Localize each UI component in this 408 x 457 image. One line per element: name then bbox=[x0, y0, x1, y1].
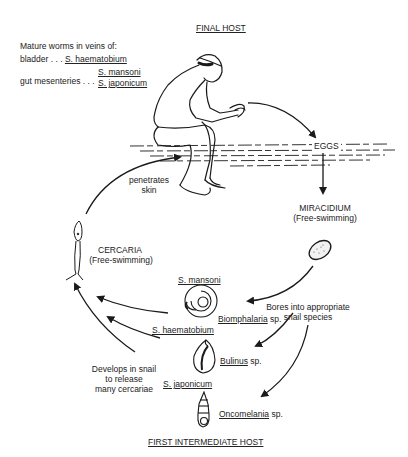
bores-label-2: snail species bbox=[258, 312, 358, 322]
snail-suffix: sp. bbox=[269, 409, 283, 419]
snail-suffix: sp. bbox=[248, 356, 262, 366]
develops-label-3: many cercariae bbox=[84, 384, 164, 394]
miracidium-note: (Free-swimming) bbox=[288, 213, 362, 223]
arrow-to-biomphalaria bbox=[248, 266, 313, 301]
miracidium-organism bbox=[306, 237, 335, 264]
penetrates-label-1: penetrates bbox=[125, 175, 173, 185]
snail-bulinus: Bulinus sp. bbox=[220, 356, 262, 366]
arrow-to-oncomelania bbox=[262, 325, 308, 396]
bladder-row: bladder . . . S. haematobium bbox=[20, 54, 127, 64]
develops-label-2: to release bbox=[84, 374, 164, 384]
biomphalaria-snail bbox=[185, 285, 217, 317]
gut-species-mansoni: S. mansoni bbox=[98, 67, 141, 77]
penetrates-label-2: skin bbox=[125, 185, 173, 195]
snail-parasite-haematobium: S. haematobium bbox=[152, 325, 214, 335]
arrow-snails-to-cercaria-3 bbox=[75, 284, 135, 352]
eggs-label: EGGS bbox=[312, 141, 341, 151]
bladder-species: S. haematobium bbox=[65, 54, 127, 64]
miracidium-label: MIRACIDIUM bbox=[293, 203, 357, 213]
bulinus-snail bbox=[194, 340, 215, 373]
snail-genus-oncomelania: Oncomelania bbox=[219, 409, 269, 419]
arrow-host-to-eggs bbox=[248, 103, 315, 137]
mature-worms-intro: Mature worms in veins of: bbox=[20, 41, 117, 51]
gut-label: gut mesenteries . . . bbox=[20, 76, 95, 86]
oncomelania-snail bbox=[198, 392, 209, 427]
cercaria-note: (Free-swimming) bbox=[84, 255, 158, 265]
cercaria-organism bbox=[66, 221, 83, 280]
human-figure bbox=[154, 55, 245, 195]
snail-oncomelania: Oncomelania sp. bbox=[219, 409, 283, 419]
bladder-label: bladder . . . bbox=[20, 54, 63, 64]
intermediate-host-title: FIRST INTERMEDIATE HOST bbox=[148, 437, 263, 447]
final-host-title: FINAL HOST bbox=[196, 23, 246, 33]
bores-label-1: Bores into appropriate bbox=[258, 302, 358, 312]
water-surface bbox=[130, 144, 395, 166]
snail-genus-bulinus: Bulinus bbox=[220, 356, 248, 366]
snail-parasite-mansoni: S. mansoni bbox=[178, 275, 221, 285]
arrow-snails-to-cercaria-1 bbox=[98, 297, 168, 313]
develops-label-1: Develops in snail bbox=[84, 364, 164, 374]
snail-parasite-japonicum: S. japonicum bbox=[163, 379, 212, 389]
gut-species-japonicum: S. japonicum bbox=[98, 78, 147, 88]
cercaria-label: CERCARIA bbox=[88, 245, 152, 255]
